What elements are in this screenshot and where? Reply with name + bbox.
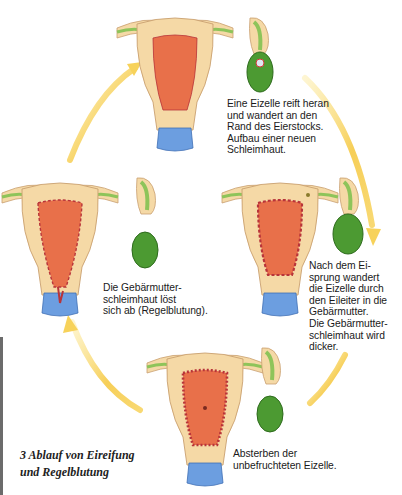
figure-caption: 3 Ablauf von Eireifung und Regelblutung	[20, 447, 135, 481]
uterus-stage-4-icon	[2, 183, 118, 316]
uterus-stage-1-icon	[117, 18, 233, 151]
ovary-stage-1-icon	[247, 18, 273, 92]
stage-4-description: Die Gebärmutter- schleimhaut löst sich a…	[103, 282, 208, 317]
ovary-stage-2-icon	[333, 178, 363, 254]
ovary-stage-4-icon	[132, 178, 158, 268]
caption-line-2: und Regelblutung	[20, 464, 135, 481]
stage-3-description: Absterben der unbefruchteten Eizelle.	[233, 448, 337, 471]
caption-line-1: 3 Ablauf von Eireifung	[20, 447, 135, 464]
menstrual-cycle-diagram: Eine Eizelle reift heran und wandert an …	[0, 0, 402, 495]
ovary-stage-3-icon	[257, 348, 283, 432]
stage-1-description: Eine Eizelle reift heran und wandert an …	[227, 98, 329, 156]
uterus-illustrations	[0, 0, 402, 495]
stage-2-description: Nach dem Ei- sprung wandert die Eizelle …	[309, 260, 388, 353]
